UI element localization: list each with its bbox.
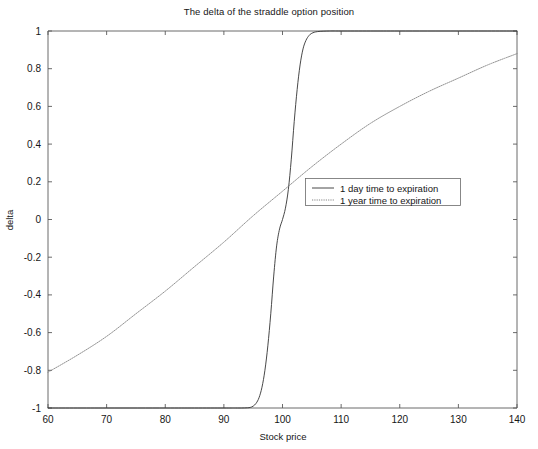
x-axis-title: Stock price — [260, 431, 307, 442]
x-tick-label: 80 — [160, 414, 172, 425]
plot-area: 60708090100110120130140 -1-0.8-0.6-0.4-0… — [0, 0, 538, 449]
chart-legend: 1 day time to expiration1 year time to e… — [306, 179, 461, 206]
y-tick-label: -0.4 — [24, 289, 42, 300]
x-tick-label: 60 — [42, 414, 54, 425]
y-tick-label: 0.2 — [27, 176, 41, 187]
y-axis-tick-labels: -1-0.8-0.6-0.4-0.200.20.40.60.81 — [24, 26, 42, 414]
series-line-1 — [48, 31, 517, 408]
y-tick-label: 0.4 — [27, 139, 41, 150]
y-tick-label: 0.8 — [27, 63, 41, 74]
y-tick-label: -0.6 — [24, 327, 42, 338]
x-tick-label: 90 — [218, 414, 230, 425]
data-series-group — [48, 31, 517, 408]
y-tick-label: -1 — [32, 403, 41, 414]
series-line-2 — [48, 54, 517, 373]
y-tick-label: -0.8 — [24, 365, 42, 376]
x-tick-label: 70 — [101, 414, 113, 425]
y-tick-label: 0.6 — [27, 101, 41, 112]
y-tick-label: 0 — [35, 214, 41, 225]
x-tick-label: 120 — [391, 414, 408, 425]
y-tick-label: -0.2 — [24, 252, 42, 263]
y-tick-label: 1 — [35, 26, 41, 37]
x-tick-label: 100 — [274, 414, 291, 425]
x-tick-label: 140 — [509, 414, 526, 425]
figure-canvas: The delta of the straddle option positio… — [0, 0, 538, 449]
x-tick-label: 110 — [333, 414, 349, 425]
x-tick-label: 130 — [450, 414, 467, 425]
legend-label-2: 1 year time to expiration — [340, 195, 441, 206]
y-axis-title: delta — [4, 209, 15, 230]
x-axis-tick-labels: 60708090100110120130140 — [42, 414, 525, 425]
legend-label-1: 1 day time to expiration — [340, 183, 438, 194]
